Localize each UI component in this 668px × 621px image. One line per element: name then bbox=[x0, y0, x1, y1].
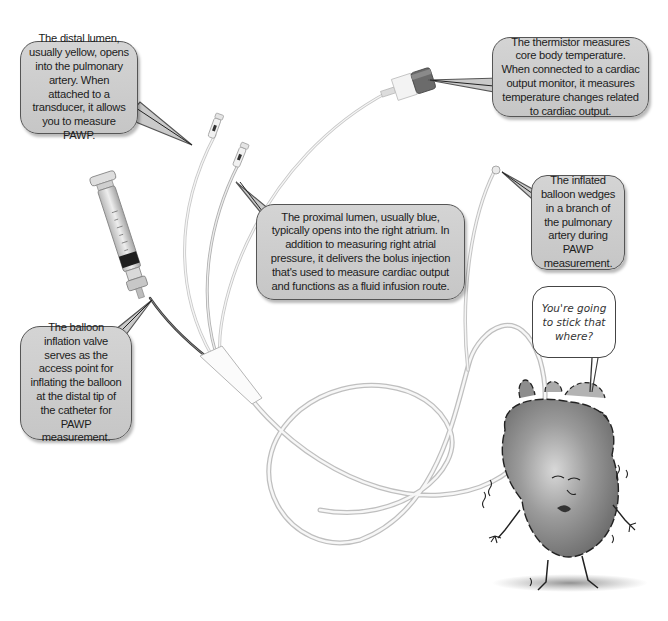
callout-balloon-inflation-valve-text: The balloon inflation valve serves as th… bbox=[29, 321, 123, 445]
proximal-lumen-hub bbox=[232, 142, 249, 168]
heart-speech-bubble: You're going to stick that where? bbox=[532, 286, 616, 358]
callout-proximal-lumen-text: The proximal lumen, usually blue, typica… bbox=[265, 211, 456, 294]
callout-distal-lumen: The distal lumen, usually yellow, opens … bbox=[20, 41, 138, 134]
callout-inflated-balloon-text: The inflated balloon wedges in a branch … bbox=[540, 174, 616, 271]
callout-proximal-lumen: The proximal lumen, usually blue, typica… bbox=[256, 204, 465, 300]
balloon-inflation-syringe bbox=[89, 170, 154, 302]
callout-inflated-balloon: The inflated balloon wedges in a branch … bbox=[531, 175, 625, 270]
callout-balloon-inflation-valve: The balloon inflation valve serves as th… bbox=[20, 326, 132, 440]
callout-thermistor-text: The thermistor measures core body temper… bbox=[501, 36, 640, 119]
balloon-tip bbox=[492, 166, 500, 174]
heart-cartoon bbox=[483, 358, 649, 592]
callout-distal-lumen-text: The distal lumen, usually yellow, opens … bbox=[29, 32, 129, 142]
heart-speech-text: You're going to stick that where? bbox=[537, 301, 611, 343]
catheter-junction-hub bbox=[200, 346, 262, 404]
thermistor-connector bbox=[378, 67, 436, 105]
callout-thermistor: The thermistor measures core body temper… bbox=[492, 37, 649, 117]
distal-lumen-hub bbox=[208, 113, 224, 139]
